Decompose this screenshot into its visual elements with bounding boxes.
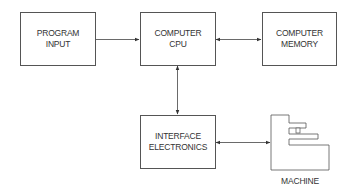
computer-memory-label-1: COMPUTER xyxy=(276,28,323,39)
interface-electronics-label-2: ELECTRONICS xyxy=(149,142,207,153)
interface-electronics-box: INTERFACE ELECTRONICS xyxy=(140,115,216,169)
program-input-label-1: PROGRAM xyxy=(37,28,80,39)
computer-cpu-label-2: CPU xyxy=(154,39,201,50)
interface-electronics-label-1: INTERFACE xyxy=(149,131,207,142)
computer-cpu-box: COMPUTER CPU xyxy=(140,12,216,66)
computer-cpu-label-1: COMPUTER xyxy=(154,28,201,39)
machine-tool-icon xyxy=(296,128,300,133)
computer-memory-label-2: MEMORY xyxy=(276,39,323,50)
machine-icon xyxy=(271,115,329,170)
machine-label: MACHINE xyxy=(270,176,330,186)
program-input-label-2: INPUT xyxy=(37,39,80,50)
computer-memory-box: COMPUTER MEMORY xyxy=(262,12,337,66)
program-input-box: PROGRAM INPUT xyxy=(20,12,96,66)
